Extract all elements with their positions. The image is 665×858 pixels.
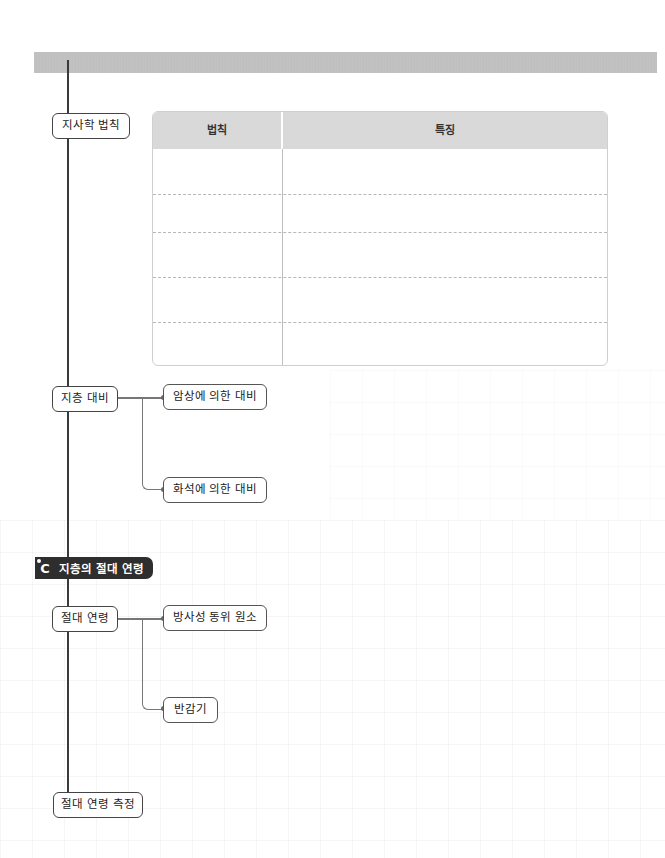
table-row-1-feature[interactable] — [283, 149, 608, 194]
node-absolute-age[interactable]: 절대 연령 — [52, 606, 118, 632]
node-correlation-by-lithology[interactable]: 암상에 의한 대비 — [163, 384, 267, 410]
node-correlation-by-fossil[interactable]: 화석에 의한 대비 — [163, 477, 267, 503]
connector-elbow — [142, 619, 164, 710]
table-header-law: 법칙 — [153, 112, 281, 149]
top-header-bar — [34, 52, 657, 73]
node-label: 화석에 의한 대비 — [173, 482, 257, 496]
node-half-life[interactable]: 반감기 — [163, 697, 218, 723]
node-label: 절대 연령 — [61, 611, 109, 625]
node-stratigraphy-laws[interactable]: 지사학 법칙 — [52, 113, 130, 139]
table-header: 법칙 특징 — [153, 112, 607, 149]
table-row-3-feature[interactable] — [283, 233, 608, 277]
node-label: 지층 대비 — [61, 391, 109, 405]
trunk-line — [67, 60, 69, 792]
section-title: 지층의 절대 연령 — [59, 560, 144, 576]
tag-notch-icon — [37, 559, 41, 563]
table-row-2-feature[interactable] — [283, 195, 608, 232]
node-absolute-age-measurement[interactable]: 절대 연령 측정 — [53, 792, 143, 818]
node-strata-correlation[interactable]: 지층 대비 — [52, 386, 118, 412]
connector-elbow — [142, 398, 164, 490]
node-label: 암상에 의한 대비 — [173, 389, 257, 403]
node-label: 지사학 법칙 — [62, 118, 121, 132]
table-header-feature: 특징 — [283, 112, 607, 149]
table-row-2-law[interactable] — [153, 195, 282, 232]
node-label: 방사성 동위 원소 — [173, 610, 257, 624]
table-row-3-law[interactable] — [153, 233, 282, 277]
background-grid-upper — [330, 370, 665, 520]
laws-table: 법칙 특징 — [152, 111, 608, 366]
node-radioactive-isotope[interactable]: 방사성 동위 원소 — [163, 605, 267, 631]
table-row-4-law[interactable] — [153, 278, 282, 322]
node-label: 절대 연령 측정 — [61, 797, 134, 811]
node-label: 반감기 — [174, 702, 207, 716]
table-row-5-law[interactable] — [153, 323, 282, 366]
table-row-1-law[interactable] — [153, 149, 282, 194]
table-row-4-feature[interactable] — [283, 278, 608, 322]
section-tag: C 지층의 절대 연령 — [35, 557, 153, 579]
table-row-5-feature[interactable] — [283, 323, 608, 366]
